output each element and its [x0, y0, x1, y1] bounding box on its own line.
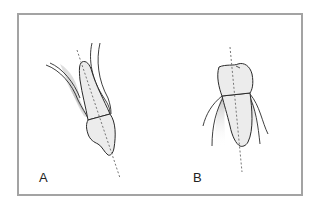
tooth-a: [46, 43, 120, 178]
tooth-diagram: [0, 0, 321, 206]
tooth-b: [203, 47, 268, 172]
panel-label-a: A: [39, 170, 48, 185]
panel-label-b: B: [193, 170, 202, 185]
